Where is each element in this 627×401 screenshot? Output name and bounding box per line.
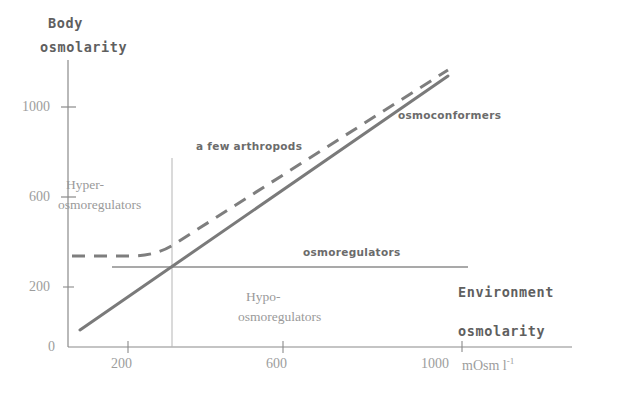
annotation-arthropods: a few arthropods [196,139,302,153]
x-axis-title-line1: Environment [458,283,554,301]
annotation-osmoregulators: osmoregulators [303,245,400,259]
annotation-osmoconformers: osmoconformers [398,108,501,122]
y-tick-label-600: 600 [29,188,50,207]
chart-title-line2: osmolarity [40,38,127,56]
region-hyper-osmoregulators-line2: osmoregulators [58,196,141,214]
y-tick-label-200: 200 [29,278,50,297]
osmoregulation-figure: Body osmolarity 1000 600 200 0 200 600 1… [0,0,627,401]
x-axis-title-line2: osmolarity [458,322,545,340]
y-tick-label-1000: 1000 [22,98,50,117]
series-arthropods [72,70,448,256]
x-axis-unit: mOsm l-1 [462,355,514,376]
x-tick-label-1000: 1000 [421,355,449,374]
x-axis-unit-exponent: -1 [507,356,515,366]
y-tick-label-0: 0 [48,338,55,357]
region-hypo-osmoregulators-line2: osmoregulators [238,308,321,326]
region-hypo-osmoregulators-line1: Hypo- [246,288,281,306]
chart-title-line1: Body [48,14,83,32]
x-tick-label-200: 200 [111,355,132,374]
x-tick-label-600: 600 [266,355,287,374]
x-axis-unit-text: mOsm l [462,358,507,373]
region-hyper-osmoregulators-line1: Hyper- [66,176,104,194]
